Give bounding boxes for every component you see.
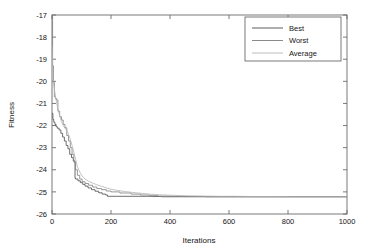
fitness-convergence-chart: -26-25-24-23-22-21-20-19-18-17 020040060…	[0, 0, 369, 252]
legend-label-average: Average	[289, 49, 317, 58]
x-tick-label: 1000	[339, 217, 356, 226]
chart-legend: BestWorstAverage	[245, 17, 341, 61]
y-tick-label: -17	[36, 11, 47, 20]
y-tick-label: -25	[36, 188, 47, 197]
y-tick-label: -26	[36, 210, 47, 219]
x-tick-label: 400	[164, 217, 177, 226]
x-tick-label: 800	[282, 217, 295, 226]
y-tick-label: -22	[36, 121, 47, 130]
y-tick-label: -18	[36, 33, 47, 42]
y-axis-label: Fitness	[7, 102, 16, 128]
y-tick-label: -23	[36, 143, 47, 152]
x-tick-label: 200	[105, 217, 118, 226]
legend-label-worst: Worst	[289, 36, 309, 45]
x-axis-label: Iterations	[183, 236, 216, 245]
x-tick-label: 0	[50, 217, 54, 226]
figure-container: -26-25-24-23-22-21-20-19-18-17 020040060…	[0, 0, 369, 252]
y-tick-label: -24	[36, 165, 47, 174]
y-tick-label: -19	[36, 55, 47, 64]
y-tick-label: -20	[36, 77, 47, 86]
x-tick-label: 600	[223, 217, 236, 226]
y-tick-label: -21	[36, 99, 47, 108]
legend-label-best: Best	[289, 24, 305, 33]
